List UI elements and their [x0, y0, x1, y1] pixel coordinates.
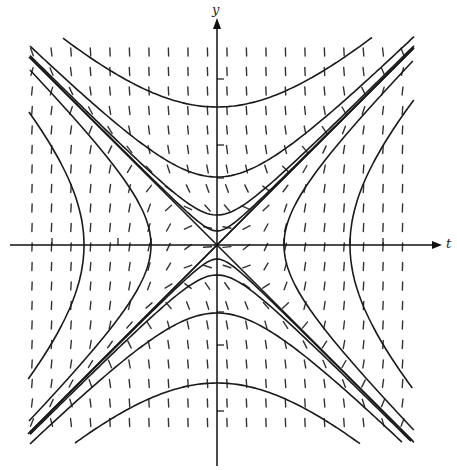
slope-mark [283, 322, 287, 329]
slope-mark [129, 282, 130, 290]
slope-mark [70, 68, 71, 76]
slope-mark [246, 126, 247, 134]
slope-mark [363, 126, 364, 134]
slope-mark [167, 165, 169, 173]
slope-mark [304, 282, 305, 290]
slope-mark [90, 399, 91, 407]
slope-mark [344, 302, 345, 310]
slope-mark [304, 204, 305, 212]
slope-mark [109, 302, 110, 310]
slope-mark [166, 205, 172, 210]
slope-mark [51, 126, 52, 134]
slope-mark [90, 185, 91, 193]
slope-mark [32, 107, 33, 115]
slope-mark [344, 204, 345, 212]
slope-mark [147, 185, 152, 191]
slope-mark [90, 165, 91, 173]
slope-mark [32, 87, 33, 95]
slope-mark [363, 165, 364, 173]
slope-mark [303, 166, 307, 173]
slope-mark [110, 204, 111, 212]
slope-mark [383, 107, 384, 115]
slope-mark [324, 302, 325, 310]
solution-curves [28, 37, 414, 444]
slope-mark [343, 126, 346, 133]
slope-mark [305, 380, 306, 388]
slope-mark [51, 380, 52, 388]
slope-mark [168, 107, 169, 115]
slope-mark [246, 146, 247, 154]
slope-mark [362, 380, 366, 387]
slope-mark [343, 87, 344, 95]
slope-mark [283, 185, 288, 191]
slope-mark [322, 341, 326, 348]
slope-mark [207, 165, 209, 173]
solution-curve [30, 275, 411, 441]
slope-mark [90, 321, 91, 329]
slope-mark [303, 341, 307, 348]
slope-mark [227, 126, 228, 134]
slope-mark [110, 87, 111, 95]
slope-mark [344, 68, 345, 76]
slope-mark [186, 185, 189, 192]
slope-mark [324, 282, 325, 290]
slope-mark [402, 399, 403, 407]
slope-mark [129, 360, 130, 368]
slope-mark [266, 360, 267, 368]
slope-mark [323, 360, 326, 367]
slope-mark [226, 302, 228, 310]
slope-mark [363, 341, 364, 349]
slope-mark [363, 321, 364, 329]
slope-mark [90, 263, 91, 271]
slope-mark [383, 126, 384, 134]
slope-mark [188, 341, 189, 349]
slope-mark [305, 107, 306, 115]
slope-mark [205, 205, 210, 211]
slope-mark [69, 87, 72, 94]
slope-mark [225, 283, 230, 290]
slope-mark [383, 360, 384, 368]
slope-mark [166, 263, 170, 270]
slope-mark [383, 48, 384, 56]
slope-mark [304, 263, 305, 271]
y-axis-arrow-icon [213, 18, 221, 29]
slope-mark [304, 224, 305, 232]
slope-mark [266, 380, 267, 388]
slope-mark [188, 360, 189, 368]
slope-mark [246, 321, 248, 329]
slope-mark [343, 146, 344, 154]
slope-field-plot [0, 0, 457, 470]
slope-mark [129, 380, 130, 388]
slope-mark [344, 243, 345, 251]
slope-mark [363, 48, 364, 56]
slope-mark [32, 380, 33, 388]
slope-mark [265, 341, 266, 349]
slope-mark [381, 68, 384, 75]
slope-mark [147, 322, 151, 329]
slope-mark [344, 399, 345, 407]
slope-mark [127, 166, 131, 173]
slope-mark [168, 360, 169, 368]
solution-curve [30, 46, 414, 215]
slope-mark [149, 107, 150, 115]
slope-mark [110, 282, 111, 290]
slope-mark [344, 185, 345, 193]
slope-mark [266, 126, 267, 134]
slope-mark [283, 303, 289, 308]
slope-mark [363, 68, 364, 76]
slope-mark [184, 265, 192, 268]
slope-mark [206, 185, 209, 193]
slope-mark [305, 87, 306, 95]
slope-mark [305, 399, 306, 407]
slope-mark [165, 284, 172, 288]
slope-mark [71, 419, 72, 427]
slope-mark [207, 341, 208, 349]
slope-mark [109, 165, 111, 173]
y-axis-label: y [212, 2, 219, 17]
slope-mark [285, 126, 286, 134]
slope-mark [168, 126, 169, 134]
slope-mark [90, 302, 91, 310]
slope-mark [227, 341, 228, 349]
slope-mark [184, 206, 191, 209]
slope-mark [264, 263, 268, 270]
